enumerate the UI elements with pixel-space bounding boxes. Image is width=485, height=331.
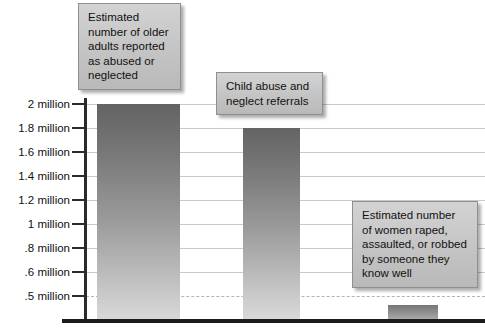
callout-line: as abused or bbox=[88, 54, 172, 69]
y-tick-label-0-5-million: .5 million bbox=[25, 290, 70, 302]
callout-child-abuse: Child abuse and neglect referrals bbox=[216, 72, 323, 115]
callout-line: number of older bbox=[88, 25, 172, 40]
bar-chart: 2 million 1.8 million 1.6 million 1.4 mi… bbox=[0, 0, 485, 331]
bar-child-abuse bbox=[243, 128, 300, 319]
tick-mark-2-million bbox=[72, 103, 85, 105]
tick-mark-0-8-million bbox=[72, 247, 85, 249]
y-tick-label-2-million: 2 million bbox=[28, 98, 70, 110]
bar-women-victimized bbox=[388, 305, 438, 319]
y-tick-label-0-6-million: .6 million bbox=[25, 266, 70, 278]
callout-line: by someone they bbox=[362, 252, 469, 267]
callout-line: adults reported bbox=[88, 39, 172, 54]
tick-mark-1-million bbox=[72, 223, 85, 225]
y-axis-labels: 2 million 1.8 million 1.6 million 1.4 mi… bbox=[0, 0, 70, 331]
y-tick-label-1-4-million: 1.4 million bbox=[18, 170, 70, 182]
y-tick-label-1-8-million: 1.8 million bbox=[18, 122, 70, 134]
callout-line: know well bbox=[362, 266, 469, 281]
tick-mark-1-6-million bbox=[72, 151, 85, 153]
tick-mark-1-2-million bbox=[72, 199, 85, 201]
callout-line: neglected bbox=[88, 68, 172, 83]
tick-mark-0-5-million bbox=[72, 295, 85, 297]
tick-mark-1-8-million bbox=[72, 127, 85, 129]
y-tick-label-0-8-million: .8 million bbox=[25, 242, 70, 254]
y-tick-label-1-million: 1 million bbox=[28, 218, 70, 230]
x-axis-line bbox=[62, 319, 485, 323]
callout-women-victimized: Estimated number of women raped, assault… bbox=[352, 201, 478, 288]
callout-line: Child abuse and bbox=[226, 79, 314, 94]
callout-line: assaulted, or robbed bbox=[362, 237, 469, 252]
y-axis-line bbox=[84, 98, 87, 321]
callout-line: Estimated bbox=[88, 10, 172, 25]
callout-line: of women raped, bbox=[362, 223, 469, 238]
tick-mark-1-4-million bbox=[72, 175, 85, 177]
callout-line: Estimated number bbox=[362, 208, 469, 223]
y-tick-label-1-2-million: 1.2 million bbox=[18, 194, 70, 206]
y-tick-label-1-6-million: 1.6 million bbox=[18, 146, 70, 158]
bar-older-adults bbox=[97, 104, 180, 319]
tick-mark-0-6-million bbox=[72, 271, 85, 273]
callout-line: neglect referrals bbox=[226, 94, 314, 109]
callout-older-adults: Estimated number of older adults reporte… bbox=[78, 3, 181, 90]
